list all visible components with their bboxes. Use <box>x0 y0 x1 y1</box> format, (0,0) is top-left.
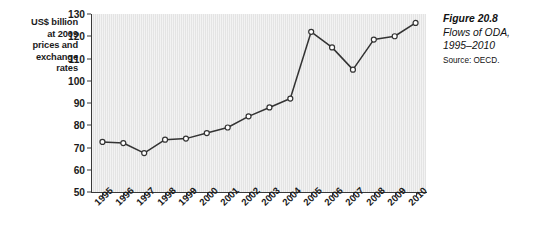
y-tick-mark <box>87 169 91 170</box>
y-tick-mark <box>87 36 91 37</box>
y-tick-label: 130 <box>68 9 85 20</box>
y-axis-title-line: exchange <box>2 52 78 64</box>
y-tick-label: 70 <box>74 142 85 153</box>
series-line <box>102 23 415 153</box>
data-point-marker <box>183 136 188 141</box>
data-point-marker <box>309 29 314 34</box>
y-tick-mark <box>87 192 91 193</box>
data-point-marker <box>288 96 293 101</box>
y-tick-mark <box>87 103 91 104</box>
data-point-marker <box>204 131 209 136</box>
y-tick-label: 90 <box>74 98 85 109</box>
figure-caption-title: Figure 20.8 <box>443 12 539 26</box>
chart-plot: 5060708090100110120130 19951996199719981… <box>92 14 426 192</box>
data-point-marker <box>246 114 251 119</box>
figure-caption: Figure 20.8 Flows of ODA, 1995–2010 Sour… <box>443 12 539 67</box>
figure-caption-line2: 1995–2010 <box>443 39 539 53</box>
data-point-marker <box>330 45 335 50</box>
y-tick-mark <box>87 125 91 126</box>
y-tick-mark <box>87 80 91 81</box>
y-tick-mark <box>87 14 91 15</box>
y-axis-title-line: US$ billion <box>2 17 78 29</box>
figure-source: Source: OECD. <box>443 55 539 67</box>
figure-caption-line1: Flows of ODA, <box>443 26 539 40</box>
data-point-marker <box>100 139 105 144</box>
data-point-marker <box>350 67 355 72</box>
y-tick-label: 60 <box>74 164 85 175</box>
y-tick-mark <box>87 58 91 59</box>
y-axis-title-line: at 2009 <box>2 29 78 41</box>
y-tick-label: 80 <box>74 120 85 131</box>
y-tick-label: 50 <box>74 187 85 198</box>
y-tick-label: 120 <box>68 31 85 42</box>
data-point-marker <box>121 141 126 146</box>
y-tick-mark <box>87 147 91 148</box>
data-point-marker <box>371 37 376 42</box>
figure-container: US$ billion at 2009 prices and exchange … <box>0 0 542 225</box>
data-point-marker <box>225 125 230 130</box>
series-line-chart <box>92 14 426 192</box>
y-tick-label: 100 <box>68 75 85 86</box>
data-point-marker <box>142 151 147 156</box>
y-axis-title: US$ billion at 2009 prices and exchange … <box>2 17 78 75</box>
data-point-marker <box>413 20 418 25</box>
y-axis-title-line: rates <box>2 63 78 75</box>
data-point-marker <box>163 137 168 142</box>
y-axis-title-line: prices and <box>2 40 78 52</box>
y-tick-label: 110 <box>69 53 85 64</box>
data-point-marker <box>392 34 397 39</box>
data-point-marker <box>267 105 272 110</box>
